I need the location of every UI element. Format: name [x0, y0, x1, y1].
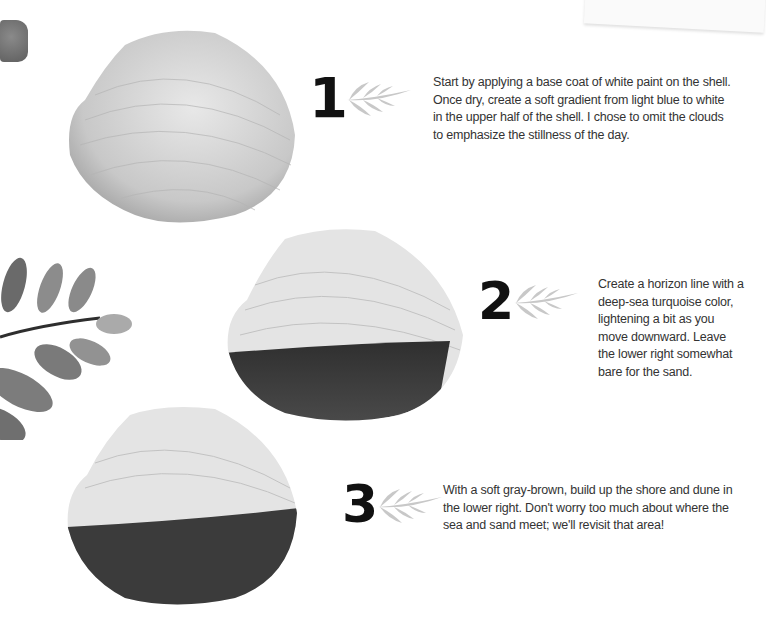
- leaf-arrow-icon: [512, 281, 580, 321]
- step-text-1: Start by applying a base coat of white p…: [433, 74, 733, 144]
- leaf-arrow-icon: [376, 485, 444, 525]
- step-text-3: With a soft gray-brown, build up the sho…: [443, 482, 738, 535]
- shell-step-2: [225, 225, 470, 423]
- step-number-2: 2: [478, 275, 514, 327]
- leaf-arrow-icon: [345, 78, 413, 118]
- stone-decoration: [0, 20, 28, 62]
- step-number-3: 3: [342, 478, 378, 530]
- shell-step-3: [65, 403, 300, 608]
- step-number-1: 1: [309, 70, 348, 126]
- paper-card-decoration: [584, 0, 766, 33]
- step-text-2: Create a horizon line with a deep-sea tu…: [598, 276, 746, 381]
- shell-step-1: [65, 25, 297, 225]
